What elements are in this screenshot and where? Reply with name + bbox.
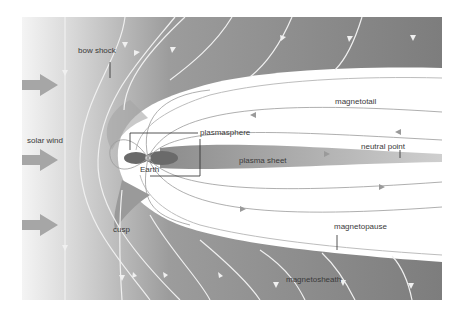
label-solar-wind: solar wind — [27, 137, 63, 145]
label-plasma-sheet: plasma sheet — [239, 157, 287, 165]
label-magnetotail: magnetotail — [335, 98, 376, 106]
label-magnetosheath: magnetosheath — [286, 276, 341, 284]
label-plasmasphere: plasmasphere — [200, 129, 250, 137]
label-bow-shock: bow shock — [78, 47, 116, 55]
label-magnetopause: magnetopause — [334, 223, 387, 231]
magnetosphere-diagram — [0, 0, 460, 315]
label-neutral-point: neutral point — [361, 143, 405, 151]
label-cusp: cusp — [113, 226, 130, 234]
label-earth: Earth — [140, 166, 159, 174]
plasmasphere-left — [124, 152, 148, 164]
